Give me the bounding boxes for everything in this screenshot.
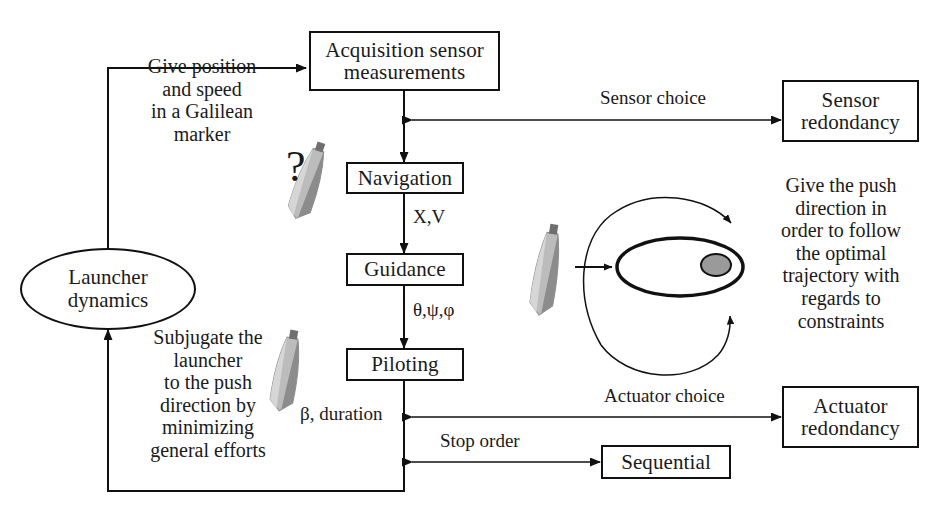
orbit-central-body [701,254,731,276]
node-guidance-label: Guidance [364,258,445,280]
node-actuator-redondancy[interactable]: Actuator redondancy [782,386,919,448]
edge-label-beta-duration: β, duration [300,404,383,425]
rocket-icon-middle [528,222,565,317]
node-navigation-label: Navigation [358,167,452,189]
node-launcher-dynamics[interactable]: Launcher dynamics [20,248,196,330]
node-sequential[interactable]: Sequential [601,445,731,479]
node-acquisition-label: Acquisition sensor measurements [325,39,484,84]
gnc-flow-diagram: Acquisition sensor measurements Navigati… [0,0,939,517]
node-sensor-redondancy-label: Sensor redondancy [801,89,900,134]
node-acquisition-sensor-measurements[interactable]: Acquisition sensor measurements [309,31,500,91]
node-launcher-dynamics-label: Launcher dynamics [68,266,148,311]
edge-label-sensor-choice: Sensor choice [600,88,706,109]
annotation-subjugate: Subjugate the launcher to the push direc… [116,326,300,462]
node-navigation[interactable]: Navigation [346,162,464,194]
question-mark-icon: ? [286,145,306,189]
edge-label-actuator-choice: Actuator choice [604,386,725,407]
node-sensor-redondancy[interactable]: Sensor redondancy [782,80,919,142]
node-piloting-label: Piloting [371,353,438,375]
node-sequential-label: Sequential [621,451,711,473]
annotation-give-position: Give position and speed in a Galilean ma… [112,55,292,145]
annotation-push-direction: Give the push direction in order to foll… [748,174,934,332]
orbit-trajectory-lower-arc [601,316,730,375]
node-actuator-redondancy-label: Actuator redondancy [801,395,900,440]
edge-label-angles: θ,ψ,φ [413,300,454,321]
edge-label-stop-order: Stop order [440,431,520,452]
node-guidance[interactable]: Guidance [346,253,464,286]
node-piloting[interactable]: Piloting [346,348,464,381]
edge-label-xv: X,V [413,207,445,228]
